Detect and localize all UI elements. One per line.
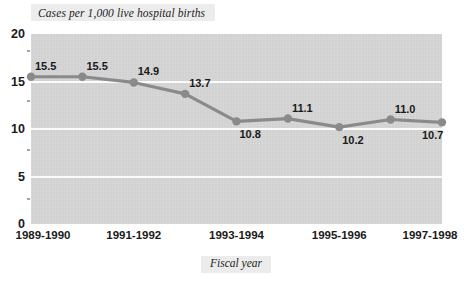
data-point-marker <box>130 78 138 86</box>
y-axis-tick-mark <box>27 199 30 200</box>
data-point-label: 10.8 <box>240 129 261 140</box>
chart-figure: Cases per 1,000 live hospital births 051… <box>0 0 472 285</box>
data-point-label: 10.2 <box>342 135 363 146</box>
x-axis-tick-label: 1993-1994 <box>209 230 264 242</box>
y-axis-tick-label: 10 <box>3 123 25 136</box>
y-axis-tick-mark <box>27 100 30 101</box>
data-point-marker <box>27 73 35 81</box>
data-point-marker <box>78 73 86 81</box>
data-point-marker <box>232 117 240 125</box>
x-axis-tick-label: 1995-1996 <box>312 230 367 242</box>
y-axis-tick-label: 20 <box>3 28 25 41</box>
data-point-marker <box>284 114 292 122</box>
y-axis-tick-mark <box>27 51 30 52</box>
y-axis-tick-label: 5 <box>3 170 25 183</box>
data-point-label: 13.7 <box>189 78 210 89</box>
data-point-marker <box>386 115 394 123</box>
x-axis-title-text: Fiscal year <box>210 257 262 269</box>
data-point-label: 15.5 <box>35 61 56 72</box>
data-point-label: 11.1 <box>292 103 313 114</box>
y-axis-tick-mark <box>27 149 30 150</box>
x-axis-tick-label: 1989-1990 <box>16 230 71 242</box>
data-point-marker <box>181 90 189 98</box>
data-point-marker <box>438 118 446 126</box>
x-axis-tick-label: 1997-1998 <box>403 230 458 242</box>
data-point-label: 15.5 <box>86 61 107 72</box>
y-axis-tick-label: 15 <box>3 75 25 88</box>
data-point-label: 14.9 <box>138 66 159 77</box>
data-point-marker <box>335 123 343 131</box>
x-axis-title: Fiscal year <box>201 256 271 273</box>
chart-title: Cases per 1,000 live hospital births <box>31 4 215 21</box>
data-point-label: 11.0 <box>395 104 416 115</box>
x-axis-tick-label: 1991-1992 <box>106 230 161 242</box>
data-point-label: 10.7 <box>422 130 443 141</box>
chart-title-text: Cases per 1,000 live hospital births <box>38 7 205 19</box>
